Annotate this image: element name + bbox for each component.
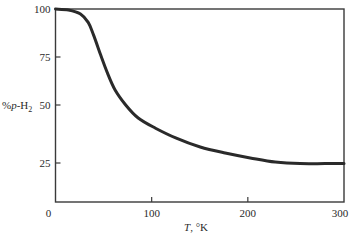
y-tick-label: 25 [40,157,52,169]
x-tick-label: 300 [332,207,349,219]
y-tick-label: 75 [40,51,52,63]
y-tick-label: 100 [34,3,51,15]
chart: 255075100 0100200300 %p-H2 T, °K [0,0,356,239]
y-tick-label: 50 [40,99,52,111]
x-tick-label: 100 [143,207,160,219]
x-tick-label: 0 [46,207,52,219]
x-axis-ticks: 0100200300 [46,197,349,219]
plot-frame [56,9,345,202]
x-axis-label: T, °K [184,221,208,233]
data-line [56,9,345,164]
y-axis-label: %p-H2 [2,99,32,114]
x-tick-label: 200 [240,207,257,219]
y-axis-ticks: 255075100 [34,3,61,169]
